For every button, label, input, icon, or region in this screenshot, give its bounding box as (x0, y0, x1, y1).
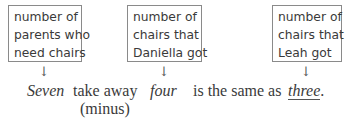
box-line: need chairs (14, 44, 81, 62)
answer-three: three. (288, 82, 324, 100)
down-arrow-icon: ↓ (158, 64, 170, 80)
box-line: parents who (14, 26, 81, 44)
box-line: number of (133, 8, 201, 26)
word-four: four (150, 82, 177, 100)
label-box-daniella-chairs: number of chairs that Daniella got (127, 5, 202, 62)
down-arrow-icon: ↓ (300, 64, 312, 80)
word-minus-note: (minus) (80, 100, 130, 118)
word-seven: Seven (27, 82, 64, 100)
box-line: Leah got (278, 44, 341, 62)
down-arrow-icon: ↓ (38, 64, 50, 80)
box-line: Daniella got (133, 44, 201, 62)
word-take-away: take away (73, 82, 137, 100)
label-box-parents-need-chairs: number of parents who need chairs (8, 5, 82, 62)
answer-word: three (288, 82, 320, 100)
word-is-the-same-as: is the same as (193, 82, 281, 100)
box-line: chairs that (278, 26, 341, 44)
label-box-leah-chairs: number of chairs that Leah got (272, 5, 342, 62)
box-line: number of (14, 8, 81, 26)
box-line: number of (278, 8, 341, 26)
period: . (320, 82, 324, 99)
box-line: chairs that (133, 26, 201, 44)
